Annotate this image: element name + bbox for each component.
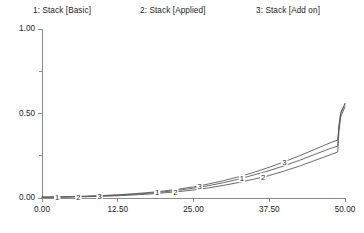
svg-text:1: 1 bbox=[155, 188, 159, 197]
y-tick-label: 1.00 bbox=[1, 24, 35, 33]
svg-text:3: 3 bbox=[197, 182, 201, 191]
x-tick-label: 50.00 bbox=[325, 205, 364, 214]
stock-simulation-chart: 1: Stack [Basic] 2: Stack [Applied] 3: S… bbox=[0, 0, 364, 233]
svg-text:3: 3 bbox=[97, 192, 101, 201]
data-series bbox=[42, 103, 345, 197]
y-tick-label: 0.00 bbox=[1, 193, 35, 202]
svg-text:3: 3 bbox=[282, 158, 286, 167]
svg-text:2: 2 bbox=[76, 193, 80, 202]
svg-text:2: 2 bbox=[261, 173, 265, 182]
svg-text:2: 2 bbox=[173, 188, 177, 197]
x-tick-label: 25.00 bbox=[174, 205, 214, 214]
svg-text:1: 1 bbox=[240, 174, 244, 183]
x-tick-label: 12.50 bbox=[98, 205, 138, 214]
plot-area: 111222333 bbox=[0, 0, 364, 233]
y-tick-label: 0.50 bbox=[1, 109, 35, 118]
svg-text:1: 1 bbox=[55, 193, 59, 202]
x-tick-label: 0.00 bbox=[22, 205, 62, 214]
x-tick-label: 37.50 bbox=[249, 205, 289, 214]
axes bbox=[38, 29, 345, 202]
